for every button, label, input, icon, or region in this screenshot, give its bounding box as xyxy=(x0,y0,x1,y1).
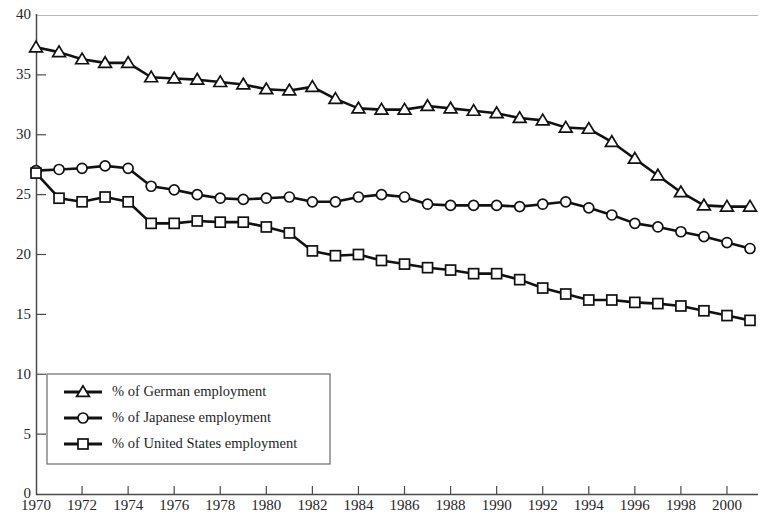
data-point-square-marker xyxy=(607,295,617,305)
data-point-circle-marker xyxy=(284,192,294,202)
y-tick-label: 25 xyxy=(16,186,31,202)
y-tick-label: 20 xyxy=(16,246,31,262)
data-point-square-marker xyxy=(469,269,479,279)
data-point-circle-marker xyxy=(307,197,317,207)
data-point-circle-marker xyxy=(169,185,179,195)
data-point-circle-marker xyxy=(261,193,271,203)
data-point-square-marker xyxy=(215,217,225,227)
x-tick-label: 1986 xyxy=(390,497,421,513)
data-point-square-marker xyxy=(77,197,87,207)
data-point-square-marker xyxy=(584,295,594,305)
x-tick-label: 1972 xyxy=(67,497,97,513)
data-point-square-marker xyxy=(330,251,340,261)
data-point-square-marker xyxy=(169,218,179,228)
data-point-circle-marker xyxy=(353,192,363,202)
data-point-square-marker xyxy=(492,269,502,279)
data-point-circle-marker xyxy=(722,238,732,248)
x-tick-label: 1990 xyxy=(482,497,512,513)
data-point-square-marker xyxy=(400,259,410,269)
x-tick-label: 1980 xyxy=(251,497,281,513)
data-point-circle-marker xyxy=(469,200,479,210)
data-point-square-marker xyxy=(630,297,640,307)
x-tick-label: 1992 xyxy=(528,497,558,513)
data-point-circle-marker xyxy=(446,200,456,210)
data-point-circle-marker xyxy=(676,227,686,237)
data-point-square-marker xyxy=(515,275,525,285)
y-tick-label: 40 xyxy=(16,6,31,22)
data-point-circle-marker xyxy=(78,413,88,423)
y-tick-label: 10 xyxy=(16,366,31,382)
data-point-circle-marker xyxy=(515,202,525,212)
data-point-circle-marker xyxy=(77,163,87,173)
data-point-square-marker xyxy=(192,216,202,226)
data-point-square-marker xyxy=(146,218,156,228)
data-point-circle-marker xyxy=(192,190,202,200)
x-tick-label: 1996 xyxy=(620,497,651,513)
x-tick-label: 2000 xyxy=(712,497,742,513)
x-tick-label: 1988 xyxy=(436,497,466,513)
x-tick-label: 1982 xyxy=(297,497,327,513)
data-point-circle-marker xyxy=(699,232,709,242)
chart-container: 0510152025303540 19701972197419761978198… xyxy=(0,0,760,524)
legend-item-label: % of Japanese employment xyxy=(112,409,271,425)
legend-item-label: % of German employment xyxy=(112,383,266,399)
data-point-square-marker xyxy=(353,250,363,260)
data-point-square-marker xyxy=(284,228,294,238)
chart-legend: % of German employment% of Japanese empl… xyxy=(47,374,330,464)
data-point-square-marker xyxy=(561,289,571,299)
data-point-square-marker xyxy=(376,255,386,265)
data-point-circle-marker xyxy=(492,200,502,210)
data-point-circle-marker xyxy=(584,203,594,213)
data-point-circle-marker xyxy=(330,197,340,207)
x-tick-label: 1994 xyxy=(574,497,605,513)
x-tick-label: 1984 xyxy=(343,497,374,513)
y-tick-label: 15 xyxy=(16,306,31,322)
x-tick-label: 1998 xyxy=(666,497,696,513)
x-tick-label: 1976 xyxy=(159,497,190,513)
data-point-square-marker xyxy=(54,193,64,203)
x-tick-label: 1970 xyxy=(21,497,51,513)
data-point-square-marker xyxy=(745,315,755,325)
data-point-square-marker xyxy=(699,306,709,316)
data-point-square-marker xyxy=(100,192,110,202)
data-point-square-marker xyxy=(446,265,456,275)
data-point-circle-marker xyxy=(630,218,640,228)
data-point-circle-marker xyxy=(561,197,571,207)
data-point-circle-marker xyxy=(607,210,617,220)
data-point-circle-marker xyxy=(376,190,386,200)
data-point-circle-marker xyxy=(538,199,548,209)
y-tick-label: 35 xyxy=(16,66,31,82)
data-point-circle-marker xyxy=(123,163,133,173)
data-point-square-marker xyxy=(123,197,133,207)
data-point-circle-marker xyxy=(54,164,64,174)
data-point-square-marker xyxy=(31,168,41,178)
x-tick-label: 1978 xyxy=(205,497,235,513)
data-point-circle-marker xyxy=(215,193,225,203)
data-point-square-marker xyxy=(676,301,686,311)
data-point-square-marker xyxy=(423,263,433,273)
data-point-square-marker xyxy=(538,283,548,293)
x-tick-label: 1974 xyxy=(113,497,144,513)
line-chart: 0510152025303540 19701972197419761978198… xyxy=(0,0,760,524)
data-point-circle-marker xyxy=(238,194,248,204)
data-point-square-marker xyxy=(653,299,663,309)
y-tick-label: 30 xyxy=(16,126,31,142)
data-point-circle-marker xyxy=(146,181,156,191)
data-point-square-marker xyxy=(78,439,88,449)
data-point-circle-marker xyxy=(745,244,755,254)
data-point-square-marker xyxy=(307,246,317,256)
data-point-circle-marker xyxy=(653,222,663,232)
y-tick-label: 5 xyxy=(24,426,32,442)
legend-item-label: % of United States employment xyxy=(112,435,297,451)
data-point-square-marker xyxy=(261,222,271,232)
data-point-circle-marker xyxy=(400,192,410,202)
data-point-square-marker xyxy=(238,217,248,227)
data-point-square-marker xyxy=(722,311,732,321)
data-point-circle-marker xyxy=(100,161,110,171)
data-point-circle-marker xyxy=(423,199,433,209)
